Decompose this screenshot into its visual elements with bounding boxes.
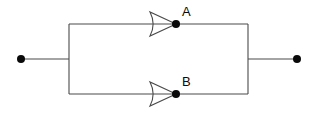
node-b-label: B <box>182 74 191 89</box>
diagram-canvas: A B <box>0 0 314 117</box>
left-terminal-dot <box>17 55 25 63</box>
node-a-label: A <box>182 4 191 19</box>
right-terminal-dot <box>293 55 301 63</box>
node-b-dot <box>172 90 180 98</box>
schematic-svg: A B <box>0 0 314 117</box>
node-a-dot <box>172 20 180 28</box>
